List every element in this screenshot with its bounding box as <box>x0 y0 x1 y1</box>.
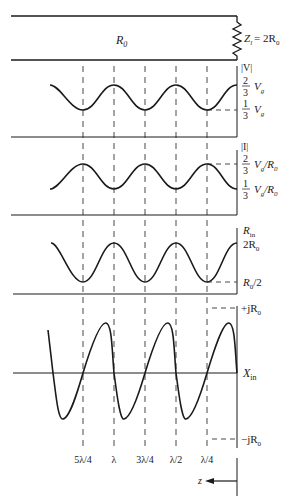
position-label-lambda4: λ/4 <box>201 454 214 465</box>
current-max-den: 3 <box>243 165 248 176</box>
voltage-max-den: 3 <box>243 87 248 98</box>
position-labels: 5λ/4 λ 3λ/4 λ/2 λ/4 <box>74 454 213 465</box>
reactance-curve <box>48 323 237 419</box>
voltage-max-unit: Vg <box>254 80 265 95</box>
arrow-left-icon <box>205 478 214 484</box>
current-min-den: 3 <box>243 190 248 201</box>
voltage-min-den: 3 <box>243 110 248 121</box>
resistance-panel: Rin 2R0 R0/2 <box>13 224 262 294</box>
line-impedance-label: R0 <box>115 33 127 49</box>
current-min-unit: Vg/R0 <box>254 183 278 198</box>
voltage-min-num: 1 <box>243 98 248 109</box>
voltage-panel: |V| 2 3 Vg 1 3 Vg <box>11 62 265 137</box>
reactance-min-label: −jR0 <box>241 433 262 448</box>
position-label-lambda2: λ/2 <box>170 454 183 465</box>
voltage-curve <box>50 85 237 110</box>
transmission-line <box>11 16 241 60</box>
reactance-axis-label: Xin <box>242 366 257 382</box>
current-panel: |I| 2 3 Vg/R0 1 3 Vg/R0 <box>11 141 278 215</box>
resistance-curve <box>51 243 237 282</box>
reactance-max-label: +jR0 <box>241 302 262 317</box>
voltage-min-unit: Vg <box>254 103 265 118</box>
current-max-unit: Vg/R0 <box>254 158 278 173</box>
voltage-axis-label: |V| <box>241 62 252 73</box>
voltage-max-num: 2 <box>243 75 248 86</box>
direction-label: z <box>197 475 202 486</box>
standing-wave-diagram: R0 Zl= 2R0 |V| 2 3 Vg 1 3 Vg |I| 2 3 <box>0 0 292 504</box>
current-max-num: 2 <box>243 153 248 164</box>
current-axis-label: |I| <box>241 141 248 152</box>
resistance-max-label: 2R0 <box>243 238 260 253</box>
load-resistor-icon <box>233 16 241 60</box>
resistance-min-label: R0/2 <box>242 276 262 291</box>
resistance-axis-label: Rin <box>242 224 256 239</box>
position-label-lambda: λ <box>112 454 117 465</box>
current-min-num: 1 <box>243 178 248 189</box>
load-impedance-label: Zl= 2R0 <box>244 32 280 47</box>
position-label-3lambda4: 3λ/4 <box>136 454 154 465</box>
reactance-panel: +jR0 Xin −jR0 <box>13 302 262 448</box>
position-markers <box>83 66 207 450</box>
position-label-5lambda4: 5λ/4 <box>74 454 92 465</box>
current-curve <box>50 164 237 189</box>
